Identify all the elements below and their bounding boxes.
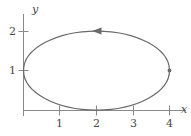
x-tick-label-3: 3 <box>130 118 137 129</box>
plot-canvas <box>0 0 191 136</box>
y-tick-label-1: 1 <box>9 65 16 76</box>
parametric-ellipse-figure: 2 1 1 2 3 4 y x <box>0 0 191 136</box>
x-tick-label-2: 2 <box>93 118 100 129</box>
direction-arrow-icon <box>92 28 102 35</box>
x-axis-label: x <box>181 104 187 115</box>
y-axis-label: y <box>32 4 38 15</box>
y-tick-label-2: 2 <box>9 26 16 37</box>
x-tick-label-1: 1 <box>56 118 63 129</box>
x-tick-label-4: 4 <box>166 118 173 129</box>
point-marker <box>168 69 172 73</box>
ellipse-curve <box>24 31 170 110</box>
